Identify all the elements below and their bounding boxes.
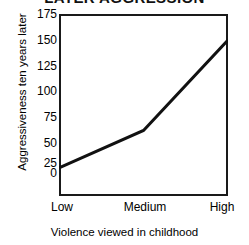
x-tick-label-medium: Medium	[124, 200, 167, 214]
data-series-line	[59, 40, 228, 168]
y-tick-label: 125	[24, 60, 57, 72]
y-tick-label: 50	[24, 137, 57, 149]
y-tick-label: 150	[24, 34, 57, 46]
y-tick-label: 100	[24, 85, 57, 97]
plot-area	[59, 14, 228, 196]
x-axis-tick-labels: Low Medium High	[0, 200, 249, 218]
x-tick-label-low: Low	[51, 200, 73, 214]
y-tick-label: 0	[24, 167, 57, 179]
chart-figure: LATER AGGRESSION Aggressiveness ten year…	[0, 0, 249, 245]
y-tick-label: 175	[24, 8, 57, 20]
x-axis-label: Violence viewed in childhood	[0, 226, 249, 238]
x-tick-label-high: High	[210, 200, 235, 214]
y-tick-label: 75	[24, 111, 57, 123]
